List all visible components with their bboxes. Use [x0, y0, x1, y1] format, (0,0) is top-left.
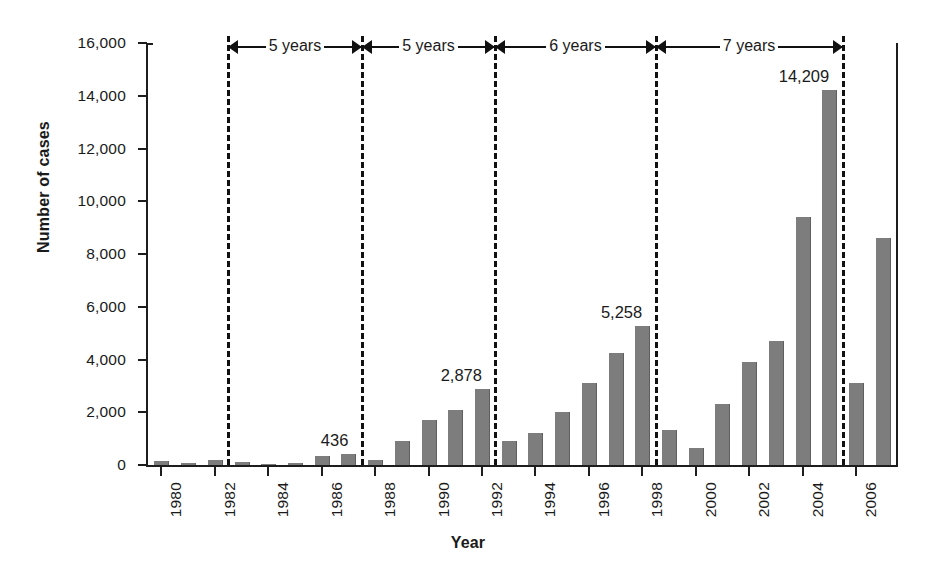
period-bracket-label: 7 years	[720, 37, 778, 54]
y-tick	[138, 411, 147, 413]
x-tick-label: 2006	[862, 482, 880, 517]
y-tick-label: 14,000	[8, 88, 126, 104]
bar	[154, 461, 169, 465]
bar	[181, 463, 196, 465]
y-tick	[138, 42, 147, 44]
period-bracket: 5 years	[362, 38, 496, 56]
x-tick	[748, 467, 750, 476]
period-bracket-label: 5 years	[266, 37, 324, 54]
period-bracket-text: 5 years	[362, 36, 496, 56]
bar	[822, 90, 837, 465]
x-tick	[641, 467, 643, 476]
x-tick	[160, 467, 162, 476]
x-tick-label: 1992	[488, 482, 506, 517]
bar	[689, 448, 704, 465]
period-bracket: 6 years	[495, 38, 655, 56]
bar	[849, 383, 864, 465]
x-tick	[428, 467, 430, 476]
period-bracket: 7 years	[656, 38, 843, 56]
x-tick-label: 2000	[702, 482, 720, 517]
bar-value-label: 5,258	[546, 304, 642, 321]
x-tick-label: 1998	[648, 482, 666, 517]
period-bracket-text: 5 years	[228, 36, 362, 56]
bar	[448, 410, 463, 465]
bar	[315, 456, 330, 465]
period-bracket-text: 6 years	[495, 36, 655, 56]
y-tick-label: 2,000	[8, 404, 126, 420]
bar	[261, 464, 276, 465]
y-axis-line	[146, 43, 148, 467]
x-tick-label: 1984	[274, 482, 292, 517]
bar	[635, 326, 650, 465]
y-tick	[138, 306, 147, 308]
bar	[502, 441, 517, 465]
bar	[742, 362, 757, 465]
period-bracket-label: 5 years	[399, 37, 457, 54]
y-tick	[138, 95, 147, 97]
period-separator-line	[227, 36, 230, 465]
x-tick	[267, 467, 269, 476]
bar	[341, 454, 356, 465]
bar	[662, 430, 677, 465]
x-tick	[374, 467, 376, 476]
y-tick-label: 10,000	[8, 193, 126, 209]
y-tick-label: 12,000	[8, 141, 126, 157]
x-tick-label: 1982	[221, 482, 239, 517]
x-tick	[802, 467, 804, 476]
x-axis-line	[146, 465, 898, 467]
y-tick-label: 16,000	[8, 35, 126, 51]
y-axis-top-cap	[146, 43, 153, 45]
bar	[609, 353, 624, 465]
x-tick	[321, 467, 323, 476]
bar	[422, 420, 437, 465]
bar	[235, 462, 250, 465]
y-tick-label: 0	[8, 457, 126, 473]
bar-chart: Number of cases 02,0004,0006,0008,00010,…	[0, 0, 936, 568]
plot-right-border	[896, 43, 898, 467]
x-tick-label: 1986	[328, 482, 346, 517]
x-tick-label: 2002	[755, 482, 773, 517]
y-tick-label: 4,000	[8, 352, 126, 368]
bar	[555, 412, 570, 465]
bar-value-label: 14,209	[733, 68, 829, 85]
x-tick	[481, 467, 483, 476]
bar	[715, 404, 730, 465]
bar-value-label: 2,878	[386, 367, 482, 384]
x-tick	[534, 467, 536, 476]
bar-value-label: 436	[252, 432, 348, 449]
x-tick-label: 1980	[167, 482, 185, 517]
bar	[769, 341, 784, 465]
period-separator-line	[655, 36, 658, 465]
bar	[876, 238, 891, 465]
period-bracket-label: 6 years	[546, 37, 604, 54]
period-bracket-text: 7 years	[656, 36, 843, 56]
period-bracket: 5 years	[228, 38, 362, 56]
bar	[475, 389, 490, 465]
x-tick	[695, 467, 697, 476]
x-tick-label: 1990	[435, 482, 453, 517]
y-tick	[138, 253, 147, 255]
x-tick-label: 2004	[809, 482, 827, 517]
bar	[208, 460, 223, 465]
y-tick-label: 6,000	[8, 299, 126, 315]
x-tick-label: 1988	[381, 482, 399, 517]
y-tick-label: 8,000	[8, 246, 126, 262]
period-separator-line	[361, 36, 364, 465]
y-tick	[138, 359, 147, 361]
bar	[796, 217, 811, 465]
period-separator-line	[842, 36, 845, 465]
x-tick	[214, 467, 216, 476]
x-tick	[855, 467, 857, 476]
bar	[288, 463, 303, 465]
x-tick	[588, 467, 590, 476]
x-axis-title: Year	[0, 534, 936, 552]
y-tick	[138, 200, 147, 202]
period-separator-line	[494, 36, 497, 465]
x-tick-label: 1994	[541, 482, 559, 517]
bar	[528, 433, 543, 465]
bar	[582, 383, 597, 465]
x-tick-label: 1996	[595, 482, 613, 517]
bar	[395, 441, 410, 465]
bar	[368, 460, 383, 465]
y-tick	[138, 148, 147, 150]
